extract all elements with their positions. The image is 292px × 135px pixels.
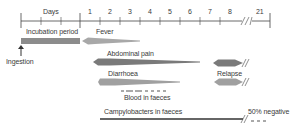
tick-label-21: 21	[256, 8, 264, 16]
tick-label-4: 4	[148, 8, 152, 16]
tick-label-5: 5	[168, 8, 172, 16]
relapse-diarrhoea-shape	[214, 79, 243, 86]
incubation-bar	[21, 38, 80, 44]
blood-in-faeces-label: Blood in faeces	[124, 94, 170, 102]
tick-label-8: 8	[228, 8, 232, 16]
relapse-label: Relapse	[217, 70, 242, 78]
negative-label: 50% negative	[248, 108, 289, 116]
abdominal-pain-bar	[93, 59, 200, 66]
tick-label-1: 1	[88, 8, 92, 16]
diarrhoea-label: Diarrhoea	[108, 70, 138, 78]
fever-label: Fever	[96, 28, 113, 36]
tick-label-6: 6	[188, 8, 192, 16]
axis-label-days: Days	[43, 8, 59, 16]
fever-bar	[82, 38, 140, 45]
abdominal-pain-label: Abdominal pain	[107, 50, 154, 58]
tick-label-2: 2	[108, 8, 112, 16]
campylobacters-label: Campylobacters in faeces	[104, 108, 182, 116]
ingestion-arrow	[18, 45, 24, 56]
tick-label-3: 3	[128, 8, 132, 16]
tick-label-7: 7	[208, 8, 212, 16]
relapse-pain-shape	[213, 60, 243, 67]
relapse-pain-break	[242, 59, 249, 67]
incubation-label: Incubation period	[26, 28, 78, 36]
diarrhoea-bar	[98, 79, 180, 86]
ingestion-label: Ingestion	[6, 58, 34, 66]
relapse-diarrhoea-break	[242, 78, 249, 86]
